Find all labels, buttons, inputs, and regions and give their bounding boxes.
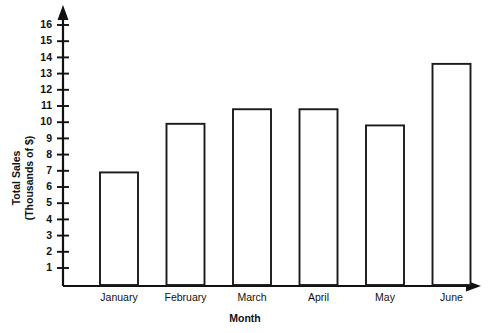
bar-march <box>233 109 271 285</box>
x-axis-category-label: April <box>308 291 329 303</box>
bar-june <box>433 64 471 285</box>
y-axis-tick-label: 2 <box>46 245 52 257</box>
bars-group <box>100 64 471 285</box>
bar-may <box>366 125 404 285</box>
y-axis-tick-label: 13 <box>40 67 52 79</box>
x-axis-category-label: January <box>100 291 138 303</box>
x-axis-category-label: June <box>440 291 463 303</box>
y-axis-tick-label: 15 <box>40 34 52 46</box>
y-axis-tick-label: 11 <box>41 99 52 111</box>
x-axis-category-label: February <box>164 291 207 303</box>
y-axis-title: Total Sales (Thousands of $) <box>10 136 35 221</box>
y-axis-title-line-2: (Thousands of $) <box>23 136 35 221</box>
x-axis-category-labels: JanuaryFebruaryMarchAprilMayJune <box>100 291 463 303</box>
y-axis-tick-label: 1 <box>46 261 52 273</box>
y-axis-ticks: 12345678910111213141516 <box>40 18 69 273</box>
bar-january <box>100 172 138 285</box>
bar-february <box>167 124 205 285</box>
y-axis-tick-label: 5 <box>46 196 52 208</box>
y-axis-tick-label: 16 <box>40 18 52 30</box>
chart-canvas: 12345678910111213141516 JanuaryFebruaryM… <box>0 0 496 333</box>
y-axis-tick-label: 8 <box>46 148 52 160</box>
y-axis-arrow-icon <box>58 5 69 20</box>
y-axis-title-line-1: Total Sales <box>10 151 22 206</box>
y-axis-tick-label: 14 <box>40 51 52 63</box>
y-axis-tick-label: 9 <box>46 132 52 144</box>
bar-april <box>300 109 338 285</box>
x-axis-category-label: May <box>375 291 396 303</box>
y-axis-tick-label: 7 <box>46 164 52 176</box>
y-axis-tick-label: 6 <box>46 180 52 192</box>
y-axis-tick-label: 3 <box>46 229 52 241</box>
y-axis-tick-label: 12 <box>40 83 52 95</box>
y-axis-tick-label: 4 <box>46 213 52 225</box>
x-axis-category-label: March <box>237 291 266 303</box>
x-axis-title: Month <box>229 312 261 324</box>
y-axis-tick-label: 10 <box>40 115 52 127</box>
y-axis-group <box>58 5 69 286</box>
bar-chart-figure: 12345678910111213141516 JanuaryFebruaryM… <box>0 0 496 333</box>
